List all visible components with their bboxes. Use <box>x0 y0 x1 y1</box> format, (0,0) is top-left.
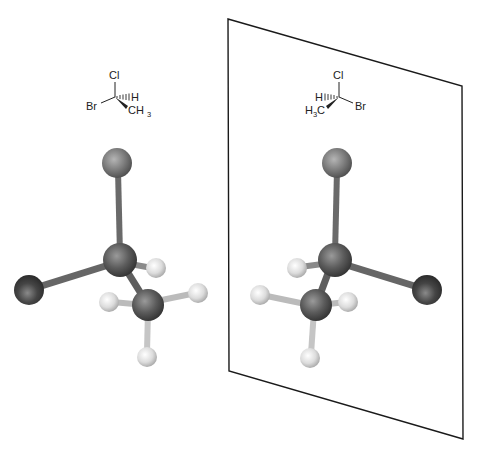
left-central-carbon-atom <box>103 243 137 277</box>
left-methyl-carbon-atom <box>132 289 164 321</box>
right-hashed-bond <box>325 94 337 101</box>
left-methyl-hydrogen-left <box>99 292 119 312</box>
left-formula-cl: Cl <box>109 69 119 81</box>
right-central-carbon-atom <box>318 243 352 277</box>
mirror-plane <box>228 19 463 439</box>
enantiomer-diagram: Cl Br H CH 3 Cl Br H H 3 <box>0 0 478 454</box>
left-formula-ch: CH <box>128 104 144 116</box>
left-hydrogen-atom <box>146 258 166 278</box>
right-molecule-model <box>250 148 442 368</box>
left-methyl-hydrogen-right <box>188 283 208 303</box>
right-hydrogen-atom <box>287 258 307 278</box>
right-structural-formula: Cl Br H H 3 C <box>305 69 366 119</box>
left-chlorine-atom <box>102 148 132 178</box>
left-formula-br: Br <box>86 100 97 112</box>
right-formula-h3-h: H <box>305 104 313 116</box>
right-formula-h: H <box>315 91 323 103</box>
right-methyl-hydrogen-right <box>338 292 358 312</box>
right-bromine-atom <box>412 275 442 305</box>
left-structural-formula: Cl Br H CH 3 <box>86 69 151 119</box>
left-formula-sub3: 3 <box>147 110 151 119</box>
left-bromine-atom <box>14 275 44 305</box>
left-molecule-model <box>14 148 208 367</box>
right-methyl-hydrogen-bottom <box>300 348 320 368</box>
right-formula-cl: Cl <box>333 69 343 81</box>
left-methyl-hydrogen-bottom <box>137 347 157 367</box>
right-methyl-carbon-atom <box>300 289 332 321</box>
right-formula-c: C <box>317 104 325 116</box>
left-formula-h: H <box>131 91 139 103</box>
right-chlorine-atom <box>322 148 352 178</box>
right-formula-br: Br <box>355 100 366 112</box>
left-hashed-bond <box>117 94 129 101</box>
right-methyl-hydrogen-left <box>250 285 270 305</box>
